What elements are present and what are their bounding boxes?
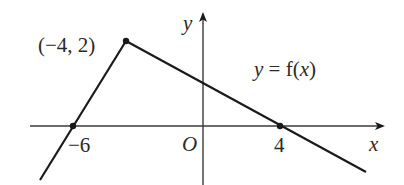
function-label: y = f(x) xyxy=(252,57,316,81)
vertex-label: (−4, 2) xyxy=(38,33,95,57)
function-graph: (−4, 2) y y = f(x) O −6 4 x xyxy=(0,0,404,185)
function-label-y: y xyxy=(252,57,264,81)
tick-label-4: 4 xyxy=(274,133,285,157)
point-x-intercept-neg6 xyxy=(70,123,76,129)
point-vertex xyxy=(123,38,129,44)
tick-label-neg6: −6 xyxy=(68,133,90,157)
function-label-eq: = f( xyxy=(263,57,299,81)
function-label-close: ) xyxy=(309,57,316,81)
y-axis-label: y xyxy=(181,11,193,35)
graph-segment-right xyxy=(126,41,366,172)
graph-segment-left xyxy=(40,41,126,180)
point-x-intercept-4 xyxy=(277,123,283,129)
x-axis-label: x xyxy=(368,132,379,156)
origin-label: O xyxy=(182,132,197,156)
